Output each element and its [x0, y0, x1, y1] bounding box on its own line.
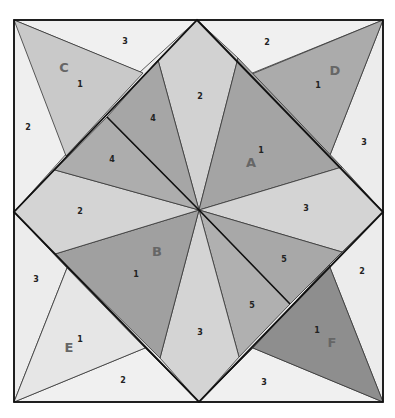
- num-e-2: 2: [120, 376, 126, 385]
- num-5b: 5: [249, 301, 255, 310]
- num-c-1: 1: [77, 80, 83, 89]
- label-d: D: [330, 63, 341, 78]
- label-a: A: [246, 155, 256, 170]
- num-center-right-3: 3: [303, 204, 309, 213]
- num-f-1: 1: [314, 326, 320, 335]
- num-e-3: 3: [33, 275, 39, 284]
- label-b: B: [152, 244, 162, 259]
- num-d-1: 1: [315, 81, 321, 90]
- label-e: E: [65, 340, 74, 355]
- num-a-1: 1: [258, 146, 264, 155]
- num-c-2: 2: [25, 123, 31, 132]
- num-center-top-2: 2: [197, 92, 203, 101]
- num-5a: 5: [281, 255, 287, 264]
- num-d-2: 2: [264, 38, 270, 47]
- num-f-3: 3: [261, 378, 267, 387]
- num-center-bottom-3: 3: [197, 328, 203, 337]
- num-e-1: 1: [77, 335, 83, 344]
- label-f: F: [328, 335, 337, 350]
- num-4a: 4: [150, 114, 156, 123]
- num-d-3: 3: [361, 138, 367, 147]
- num-center-left-2: 2: [77, 207, 83, 216]
- num-4b: 4: [109, 155, 115, 164]
- label-c: C: [59, 60, 69, 75]
- num-f-2: 2: [359, 267, 365, 276]
- quilt-pattern-diagram: C D A B E F 1 1 1 1 1 1 3 2 2 3 3 2 2 3 …: [0, 0, 395, 418]
- num-b-1: 1: [133, 270, 139, 279]
- num-c-3: 3: [122, 37, 128, 46]
